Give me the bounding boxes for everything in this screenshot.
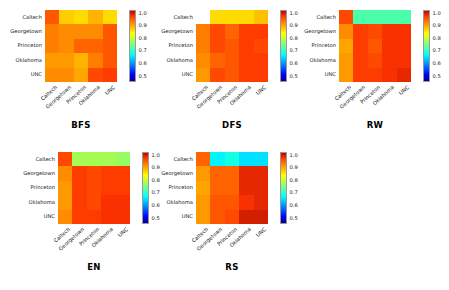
heatmap-cell xyxy=(225,166,239,180)
heatmap-cell xyxy=(196,10,210,24)
heatmap-cell xyxy=(101,195,115,209)
heatmap-cell xyxy=(116,152,130,166)
y-axis-tick-label: Caltech xyxy=(173,15,193,20)
heatmap-cell xyxy=(87,166,101,180)
heatmap-cell xyxy=(254,152,268,166)
heatmap-cell xyxy=(210,39,224,53)
colorbar-tick-label: 0.6 xyxy=(433,60,441,66)
y-axis-tick-label: Caltech xyxy=(22,15,42,20)
heatmap-plot-dfs: CaltechGeorgetownPrincetonOklahomaUNCCal… xyxy=(196,10,268,82)
colorbar-tick-label: 0.5 xyxy=(433,73,441,79)
heatmap-plot-bfs: CaltechGeorgetownPrincetonOklahomaUNCCal… xyxy=(45,10,117,82)
y-axis-tick-label: Oklahoma xyxy=(167,58,193,63)
heatmap-figure: CaltechGeorgetownPrincetonOklahomaUNCCal… xyxy=(0,0,449,290)
heatmap-cell xyxy=(196,181,210,195)
heatmap-cell xyxy=(368,53,382,67)
heatmap-cell xyxy=(239,152,253,166)
heatmap-cell xyxy=(116,166,130,180)
heatmap-cell xyxy=(225,195,239,209)
x-axis-labels-bfs: CaltechGeorgetownPrincetonOklahomaUNC xyxy=(45,82,117,112)
x-axis-tick-label: UNC xyxy=(116,226,128,238)
heatmap-cell xyxy=(74,10,88,24)
heatmap-cell xyxy=(254,195,268,209)
y-axis-tick-label: Georgetown xyxy=(161,29,193,34)
heatmap-cell xyxy=(397,10,411,24)
colorbar-tick-label: 0.7 xyxy=(433,47,441,53)
heatmap-cell xyxy=(353,10,367,24)
heatmap-cell xyxy=(382,53,396,67)
heatmap-cell xyxy=(87,195,101,209)
heatmap-cell xyxy=(353,39,367,53)
heatmap-cell xyxy=(101,210,115,224)
heatmap-cell xyxy=(88,10,102,24)
heatmap-cell xyxy=(397,39,411,53)
heatmap-cell xyxy=(210,53,224,67)
heatmap-cell xyxy=(116,181,130,195)
colorbar-tick-label: 0.7 xyxy=(290,189,298,195)
heatmap-cell xyxy=(87,181,101,195)
heatmap-cell xyxy=(254,10,268,24)
heatmap-cell xyxy=(225,24,239,38)
y-axis-tick-label: Princeton xyxy=(312,43,336,48)
heatmap-cell xyxy=(210,24,224,38)
x-axis-labels-rw: CaltechGeorgetownPrincetonOklahomaUNC xyxy=(339,82,411,112)
heatmap-cell xyxy=(88,39,102,53)
heatmap-cell xyxy=(239,195,253,209)
heatmap-cell xyxy=(88,24,102,38)
y-axis-tick-label: UNC xyxy=(182,72,193,77)
heatmap-cell xyxy=(196,39,210,53)
heatmap-cell xyxy=(339,10,353,24)
heatmap-cell xyxy=(196,210,210,224)
heatmap-cell xyxy=(339,53,353,67)
heatmap-cell xyxy=(254,68,268,82)
heatmap-cell xyxy=(353,68,367,82)
heatmap-cell xyxy=(59,68,73,82)
x-axis-labels-rs: CaltechGeorgetownPrincetonOklahomaUNC xyxy=(196,224,268,254)
panel-title-dfs: DFS xyxy=(191,120,273,130)
y-axis-tick-label: Princeton xyxy=(169,185,193,190)
y-axis-tick-label: Princeton xyxy=(18,43,42,48)
y-axis-tick-label: Oklahoma xyxy=(310,58,336,63)
heatmap-cell xyxy=(239,68,253,82)
heatmap-cell xyxy=(103,53,117,67)
colorbar-tick-label: 0.8 xyxy=(290,177,298,183)
heatmap-cell xyxy=(254,166,268,180)
colorbar-tick-label: 0.8 xyxy=(433,35,441,41)
heatmap-cell xyxy=(339,24,353,38)
heatmap-cell xyxy=(382,39,396,53)
y-axis-tick-label: UNC xyxy=(182,214,193,219)
heatmap-cell xyxy=(196,195,210,209)
y-axis-labels-rw: CaltechGeorgetownPrincetonOklahomaUNC xyxy=(279,10,339,82)
heatmap-cell xyxy=(225,181,239,195)
heatmap-cell xyxy=(397,24,411,38)
heatmap-cell xyxy=(45,24,59,38)
colorbar-rw: 1.00.90.80.70.60.5 xyxy=(423,10,430,82)
heatmap-cell xyxy=(225,39,239,53)
heatmap-cell xyxy=(196,53,210,67)
heatmap-cell xyxy=(225,210,239,224)
y-axis-tick-label: Georgetown xyxy=(23,171,55,176)
heatmap-cell xyxy=(239,53,253,67)
heatmap-cell xyxy=(225,152,239,166)
heatmap-grid-en xyxy=(58,152,130,224)
heatmap-cell xyxy=(59,24,73,38)
heatmap-cell xyxy=(59,53,73,67)
heatmap-cell xyxy=(59,10,73,24)
heatmap-cell xyxy=(239,10,253,24)
heatmap-cell xyxy=(210,152,224,166)
colorbar-tick-label: 1.0 xyxy=(290,152,298,158)
x-axis-labels-dfs: CaltechGeorgetownPrincetonOklahomaUNC xyxy=(196,82,268,112)
heatmap-cell xyxy=(254,181,268,195)
colorbar-tick-label: 0.6 xyxy=(290,202,298,208)
heatmap-cell xyxy=(45,39,59,53)
heatmap-cell xyxy=(196,68,210,82)
heatmap-cell xyxy=(72,181,86,195)
heatmap-cell xyxy=(353,24,367,38)
colorbar-gradient xyxy=(129,10,136,82)
y-axis-tick-label: Oklahoma xyxy=(29,200,55,205)
heatmap-cell xyxy=(72,152,86,166)
heatmap-cell xyxy=(339,39,353,53)
heatmap-cell xyxy=(254,210,268,224)
heatmap-cell xyxy=(103,39,117,53)
panel-rs: CaltechGeorgetownPrincetonOklahomaUNCCal… xyxy=(196,152,268,224)
